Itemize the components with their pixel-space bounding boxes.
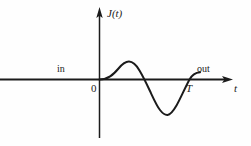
signal-curve — [100, 62, 201, 115]
x-axis-group — [0, 76, 233, 83]
curve-group — [100, 62, 201, 115]
in-region-label: in — [57, 64, 65, 74]
figure-container: J(t) t in out 0 T — [0, 0, 251, 146]
x-axis-label: t — [234, 83, 237, 94]
period-label: T — [186, 83, 192, 94]
y-axis-group — [96, 7, 102, 138]
y-axis-label: J(t) — [107, 8, 122, 19]
signal-plot-svg — [0, 0, 251, 146]
out-region-label: out — [197, 64, 210, 74]
origin-label: 0 — [91, 83, 97, 94]
